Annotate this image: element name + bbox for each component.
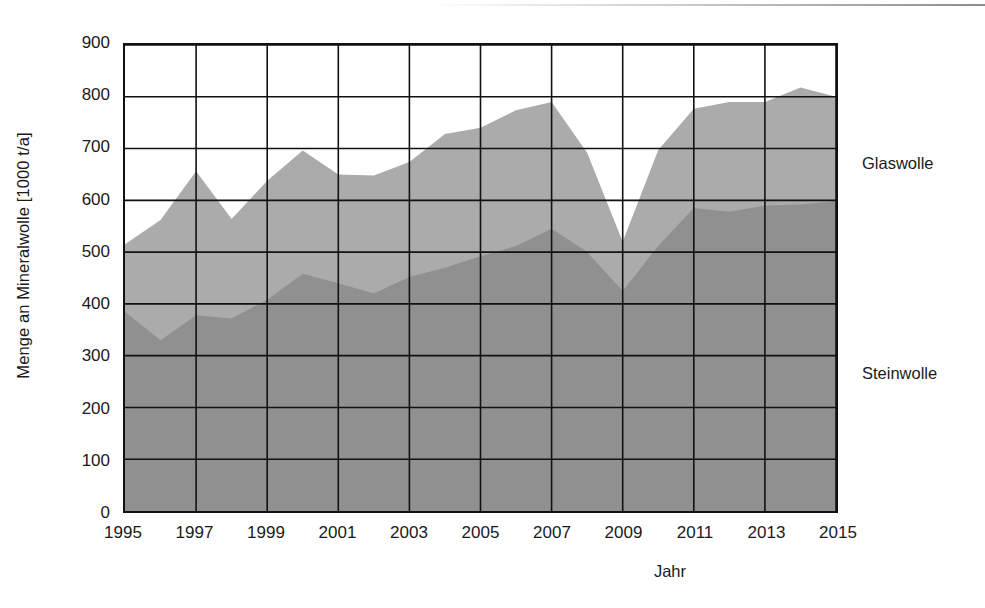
series-label-steinwolle: Steinwolle: [862, 365, 937, 382]
y-tick-label-200: 200: [48, 400, 110, 417]
x-tick-label-2013: 2013: [729, 524, 805, 541]
y-tick-label-700: 700: [48, 138, 110, 155]
x-tick-label-2011: 2011: [657, 524, 733, 541]
x-tick-label-1999: 1999: [228, 524, 304, 541]
y-axis-title: Menge an Mineralwolle [1000 t/a]: [14, 21, 33, 491]
x-tick-label-1995: 1995: [85, 524, 161, 541]
x-tick-label-2007: 2007: [514, 524, 590, 541]
y-tick-label-100: 100: [48, 452, 110, 469]
plot-svg: [125, 45, 836, 511]
y-tick-label-0: 0: [48, 504, 110, 521]
y-tick-label-400: 400: [48, 295, 110, 312]
y-tick-label-900: 900: [48, 34, 110, 51]
y-tick-label-500: 500: [48, 243, 110, 260]
plot-area: [123, 43, 838, 513]
y-tick-label-600: 600: [48, 191, 110, 208]
x-tick-label-1997: 1997: [157, 524, 233, 541]
stacked-area-chart: Menge an Mineralwolle [1000 t/a] 0100200…: [0, 0, 985, 608]
series-label-glaswolle: Glaswolle: [862, 155, 934, 172]
x-tick-label-2009: 2009: [586, 524, 662, 541]
x-axis-title: Jahr: [595, 562, 745, 581]
y-tick-label-300: 300: [48, 347, 110, 364]
x-tick-label-2005: 2005: [443, 524, 519, 541]
x-tick-label-2001: 2001: [300, 524, 376, 541]
x-tick-label-2015: 2015: [800, 524, 876, 541]
y-tick-label-800: 800: [48, 86, 110, 103]
x-tick-label-2003: 2003: [371, 524, 447, 541]
